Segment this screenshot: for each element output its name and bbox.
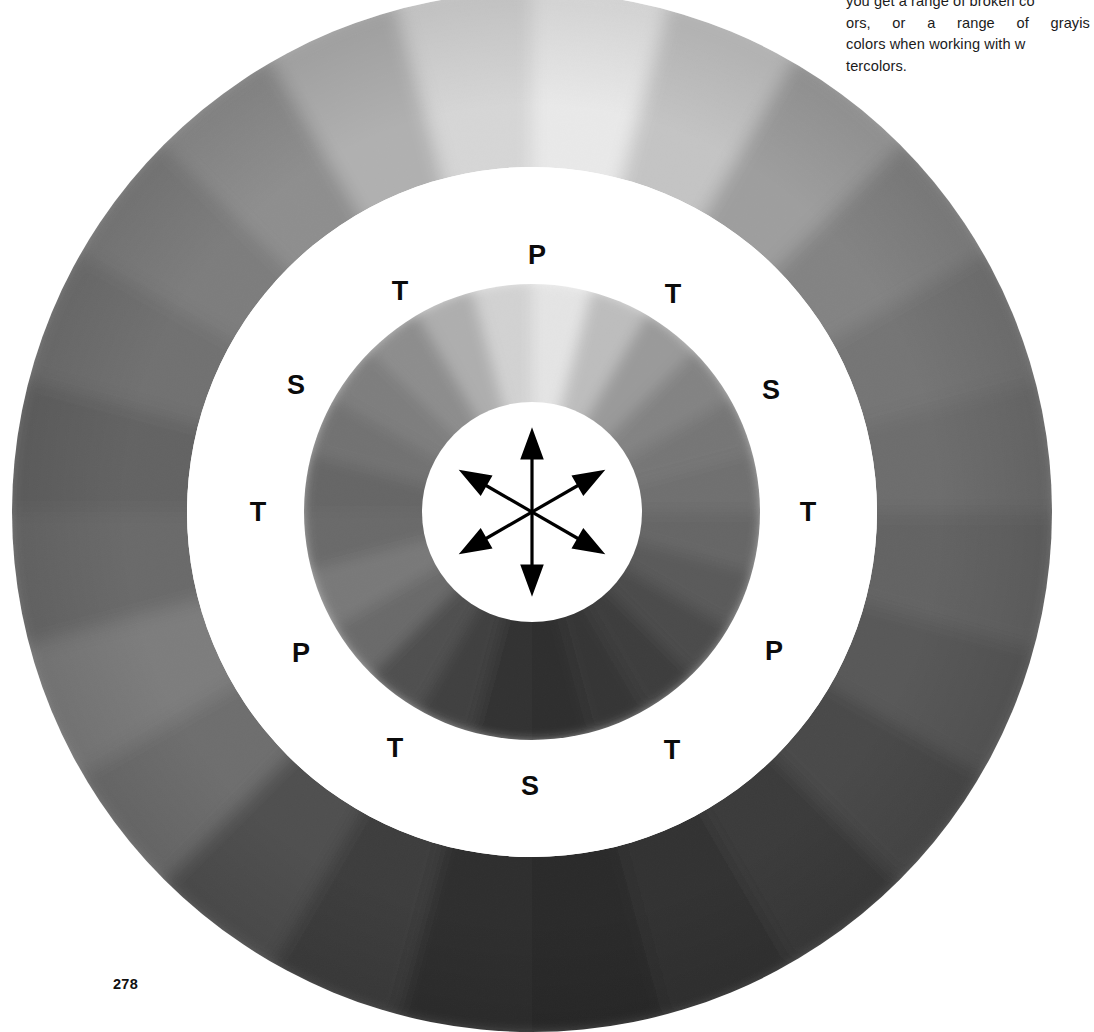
ring-label-p-top: P — [528, 242, 546, 269]
ring-label-t-upper-left: T — [392, 278, 409, 305]
color-wheel-svg — [12, 0, 1052, 1032]
page-number: 278 — [113, 976, 138, 992]
ring-label-p-left-lower: P — [292, 640, 310, 667]
body-line-3: colors when working with w — [846, 34, 1094, 56]
ring-label-t-left: T — [250, 499, 267, 526]
ring-label-t-upper-right: T — [665, 281, 682, 308]
ring-label-s-left-upper: S — [287, 372, 305, 399]
ring-label-t-lower-right: T — [664, 737, 681, 764]
ring-label-s-right-upper: S — [762, 377, 780, 404]
body-line-2: ors, or a range of grayis — [846, 13, 1090, 35]
body-line-4: tercolors. — [846, 56, 1094, 78]
ring-label-p-right-lower: P — [765, 638, 783, 665]
ring-label-s-bottom: S — [521, 773, 539, 800]
body-line-1: you get a range of broken co — [846, 0, 1094, 13]
ring-label-t-right: T — [800, 499, 817, 526]
body-text-column: you get a range of broken co ors, or a r… — [846, 0, 1094, 77]
grayscale-color-wheel-figure — [12, 0, 1052, 1032]
ring-label-t-lower-left: T — [387, 735, 404, 762]
